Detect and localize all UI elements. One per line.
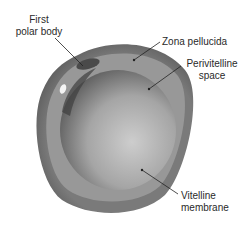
label-perivitelline-space: Perivitelline space bbox=[183, 58, 241, 82]
label-zona-pellucida: Zona pellucida bbox=[162, 36, 227, 48]
label-vitelline-membrane: Vitelline membrane bbox=[181, 190, 229, 214]
label-first-polar-body-line1: First bbox=[14, 14, 64, 26]
leader-dot-perivitelline bbox=[148, 88, 150, 90]
label-first-polar-body-line2: polar body bbox=[14, 26, 64, 38]
label-perivitelline-line2: space bbox=[183, 70, 241, 82]
label-perivitelline-line1: Perivitelline bbox=[183, 58, 241, 70]
leader-dot-zona bbox=[133, 59, 135, 61]
label-vitelline-line2: membrane bbox=[181, 202, 229, 214]
label-first-polar-body: First polar body bbox=[14, 14, 64, 38]
leader-dot-vitelline bbox=[141, 169, 143, 171]
label-vitelline-line1: Vitelline bbox=[181, 190, 229, 202]
